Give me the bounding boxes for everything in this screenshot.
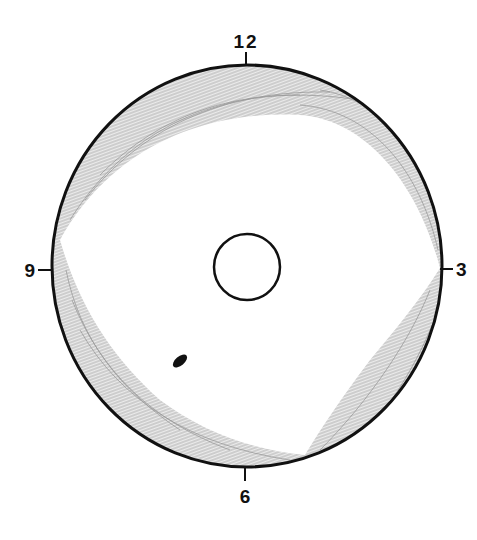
- inner-circle: [214, 234, 280, 300]
- label-12: 12: [233, 31, 258, 52]
- label-6: 6: [240, 486, 251, 507]
- clock-diagram: 12 3 6 9: [0, 0, 477, 540]
- label-3: 3: [456, 259, 467, 280]
- label-9: 9: [24, 260, 35, 281]
- dark-spot: [171, 352, 190, 370]
